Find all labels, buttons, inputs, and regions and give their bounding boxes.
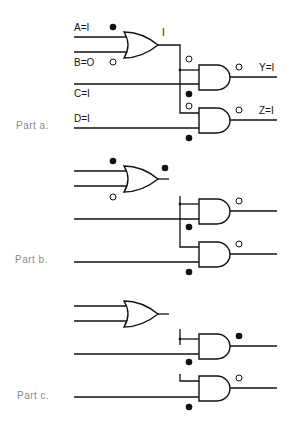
or-gate-b: [124, 166, 158, 192]
hollow-dot-marker: [236, 64, 242, 70]
hollow-dot-marker: [236, 107, 242, 113]
input-c-label: C=I: [74, 88, 90, 99]
hollow-dot-marker: [236, 241, 242, 247]
hollow-dot-marker: [186, 56, 192, 62]
or-gate-a: [124, 32, 158, 58]
output-y-label: Y=I: [259, 62, 274, 73]
and-gate-lower-c: [199, 376, 230, 401]
part-c-label: Part c.: [17, 390, 49, 401]
filled-dot-marker: [186, 404, 193, 411]
or-gate-c: [124, 301, 158, 327]
hollow-dot-marker: [186, 103, 192, 109]
filled-dot-marker: [186, 91, 193, 98]
and-gate-upper-a: [199, 65, 230, 90]
filled-dot-marker: [186, 269, 193, 276]
input-b-label: B=O: [74, 57, 95, 68]
output-z-label: Z=I: [259, 105, 274, 116]
junction-dot: [179, 338, 182, 341]
and-gate-upper-b: [199, 199, 230, 224]
input-d-label: D=I: [74, 113, 90, 124]
filled-dot-marker: [162, 165, 169, 172]
and-gate-lower-a: [199, 108, 230, 133]
filled-dot-marker: [186, 135, 193, 142]
part-a: A=I B=O C=I D=I I Y=I Z=I Part a.: [16, 22, 277, 141]
wire-or-out-a: [158, 45, 199, 113]
part-b-label: Part b.: [15, 254, 48, 265]
or-output-label: I: [162, 27, 165, 38]
part-c: Part c.: [17, 301, 277, 410]
wire-stub-lower-c: [180, 374, 199, 381]
filled-dot-marker: [110, 158, 117, 165]
filled-dot-marker: [236, 333, 243, 340]
and-gate-lower-b: [199, 242, 230, 267]
filled-dot-marker: [186, 224, 193, 231]
and-gate-upper-c: [199, 334, 230, 359]
filled-dot-marker: [186, 359, 193, 366]
hollow-dot-marker: [236, 198, 242, 204]
logic-circuit-diagram: A=I B=O C=I D=I I Y=I Z=I Part a. Part b…: [0, 0, 299, 434]
junction-dot: [179, 69, 182, 72]
filled-dot-marker: [110, 24, 117, 31]
hollow-dot-marker: [110, 59, 116, 65]
part-a-label: Part a.: [16, 120, 49, 131]
input-a-label: A=I: [74, 22, 89, 33]
part-b: Part b.: [15, 158, 277, 276]
hollow-dot-marker: [110, 194, 116, 200]
junction-dot: [179, 203, 182, 206]
hollow-dot-marker: [236, 375, 242, 381]
